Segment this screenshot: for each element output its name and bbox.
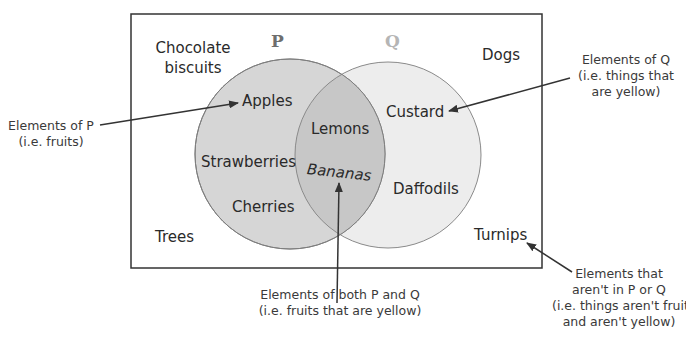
annotation-neither-line4: and aren't yellow)	[552, 314, 686, 330]
annotation-neither-line2: aren't in P or Q	[552, 282, 686, 298]
element-turnips: Turnips	[474, 226, 527, 244]
element-custard: Custard	[386, 103, 444, 121]
set-p-label: P	[271, 31, 284, 51]
element-daffodils: Daffodils	[393, 180, 459, 198]
annotation-p-line1: Elements of P	[4, 118, 98, 134]
annotation-q-line1: Elements of Q	[570, 52, 682, 68]
element-lemons: Lemons	[311, 120, 369, 138]
annotation-neither-line3: (i.e. things aren't fruits	[552, 298, 686, 314]
arrow-q	[449, 78, 570, 111]
annotation-both-line2: (i.e. fruits that are yellow)	[255, 303, 425, 319]
element-trees: Trees	[155, 228, 194, 246]
annotation-q-line3: are yellow)	[570, 84, 682, 100]
chocolate-line2: biscuits	[143, 58, 243, 78]
chocolate-line1: Chocolate	[143, 38, 243, 58]
annotation-elements-neither: Elements that aren't in P or Q (i.e. thi…	[552, 266, 686, 330]
annotation-both-line1: Elements of both P and Q	[255, 287, 425, 303]
annotation-p-line2: (i.e. fruits)	[4, 134, 98, 150]
annotation-elements-of-p: Elements of P (i.e. fruits)	[4, 118, 98, 150]
element-apples: Apples	[242, 92, 293, 110]
annotation-elements-of-q: Elements of Q (i.e. things that are yell…	[570, 52, 682, 100]
element-dogs: Dogs	[482, 46, 520, 64]
set-q-label: Q	[385, 31, 400, 51]
annotation-q-line2: (i.e. things that	[570, 68, 682, 84]
element-chocolate-biscuits: Chocolate biscuits	[143, 38, 243, 78]
element-strawberries: Strawberries	[201, 153, 296, 171]
annotation-elements-of-both: Elements of both P and Q (i.e. fruits th…	[255, 287, 425, 319]
element-cherries: Cherries	[232, 198, 295, 216]
annotation-neither-line1: Elements that	[552, 266, 686, 282]
